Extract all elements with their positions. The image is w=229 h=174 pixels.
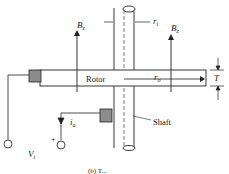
rotor-label: Rotor: [86, 75, 105, 84]
bz-label-left: Bz: [77, 21, 85, 31]
homopolar-generator-diagram: [0, 0, 229, 174]
ri-label: ri: [153, 17, 158, 27]
thickness-label: T: [214, 74, 219, 83]
plus-terminal-label: +: [51, 136, 56, 144]
figure-caption: (b) T...: [88, 168, 107, 174]
outer-brush: [29, 70, 41, 82]
bz-label-right: Bz: [171, 24, 179, 34]
rotor-disc: [40, 70, 206, 86]
shaft-label: Shaft: [153, 118, 171, 127]
vt-label: Vt: [28, 150, 35, 160]
shaft-leader: [133, 116, 151, 120]
shaft-brush: [100, 109, 112, 122]
ia-label: ia: [70, 118, 76, 128]
ro-label: ro: [154, 73, 161, 83]
